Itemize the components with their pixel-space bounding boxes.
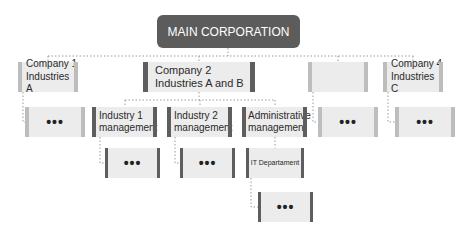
left-bar <box>105 148 108 178</box>
left-bar <box>383 62 387 92</box>
company-2-industries: Industries A and B <box>155 77 244 90</box>
company-2-name: Company 2 <box>155 64 244 77</box>
ellipsis-icon: ••• <box>199 155 217 171</box>
company-3-blank-node[interactable] <box>308 62 368 92</box>
company-1-child-node[interactable]: ••• <box>25 107 85 137</box>
left-bar <box>308 62 312 92</box>
company-4-node[interactable]: Company 4 Industries C <box>383 62 443 92</box>
left-bar <box>246 148 249 178</box>
left-bar <box>143 62 148 92</box>
ellipsis-icon: ••• <box>277 199 295 215</box>
it-department-child-node[interactable]: ••• <box>258 192 313 222</box>
right-bar <box>364 62 368 92</box>
company-1-label: Company 1 Industries A <box>18 58 78 96</box>
industry-2-child-node[interactable]: ••• <box>180 148 235 178</box>
right-bar <box>153 107 157 137</box>
left-bar <box>180 148 183 178</box>
company-4-label: Company 4 Industries C <box>383 58 443 96</box>
industry-1-child-node[interactable]: ••• <box>105 148 160 178</box>
industry-1-management-node[interactable]: Industry 1 management <box>92 107 157 137</box>
right-bar <box>81 107 85 137</box>
company-4-name: Company 4 <box>391 58 443 71</box>
company-4-child-node[interactable]: ••• <box>395 107 455 137</box>
right-bar <box>303 107 307 137</box>
left-bar <box>395 107 399 137</box>
industry-1-line2: management <box>99 122 157 135</box>
left-bar <box>258 192 261 222</box>
main-corporation-node[interactable]: MAIN CORPORATION <box>157 15 300 48</box>
company-4-industries: Industries C <box>391 71 443 96</box>
right-bar <box>439 62 443 92</box>
left-bar <box>18 62 22 92</box>
industry-2-label: Industry 2 management <box>167 110 232 135</box>
administrative-management-node[interactable]: Administrative management <box>242 107 307 137</box>
company-2-label: Company 2 Industries A and B <box>143 64 244 90</box>
right-bar <box>228 107 232 137</box>
industry-1-line1: Industry 1 <box>99 110 157 123</box>
left-bar <box>242 107 246 137</box>
company-3-child-node[interactable]: ••• <box>318 107 378 137</box>
ellipsis-icon: ••• <box>46 114 64 130</box>
industry-2-management-node[interactable]: Industry 2 management <box>167 107 232 137</box>
main-corporation-label: MAIN CORPORATION <box>168 25 290 39</box>
industry-2-line2: management <box>174 122 232 135</box>
ellipsis-icon: ••• <box>339 114 357 130</box>
right-bar <box>157 148 160 178</box>
industry-1-label: Industry 1 management <box>92 110 157 135</box>
company-2-node[interactable]: Company 2 Industries A and B <box>143 62 255 92</box>
right-bar <box>250 62 255 92</box>
left-bar <box>167 107 171 137</box>
ellipsis-icon: ••• <box>124 155 142 171</box>
right-bar <box>301 148 304 178</box>
administrative-line2: management <box>248 122 311 135</box>
it-department-label: IT Departament <box>251 157 300 170</box>
right-bar <box>232 148 235 178</box>
right-bar <box>310 192 313 222</box>
company-1-name: Company 1 <box>26 58 78 71</box>
right-bar <box>374 107 378 137</box>
industry-2-line1: Industry 2 <box>174 110 232 123</box>
right-bar <box>451 107 455 137</box>
company-1-industries: Industries A <box>26 71 78 96</box>
left-bar <box>92 107 96 137</box>
left-bar <box>318 107 322 137</box>
right-bar <box>74 62 78 92</box>
it-department-node[interactable]: IT Departament <box>246 148 304 178</box>
ellipsis-icon: ••• <box>416 114 434 130</box>
company-1-node[interactable]: Company 1 Industries A <box>18 62 78 92</box>
administrative-line1: Administrative <box>248 110 311 123</box>
administrative-label: Administrative management <box>242 110 311 135</box>
left-bar <box>25 107 29 137</box>
